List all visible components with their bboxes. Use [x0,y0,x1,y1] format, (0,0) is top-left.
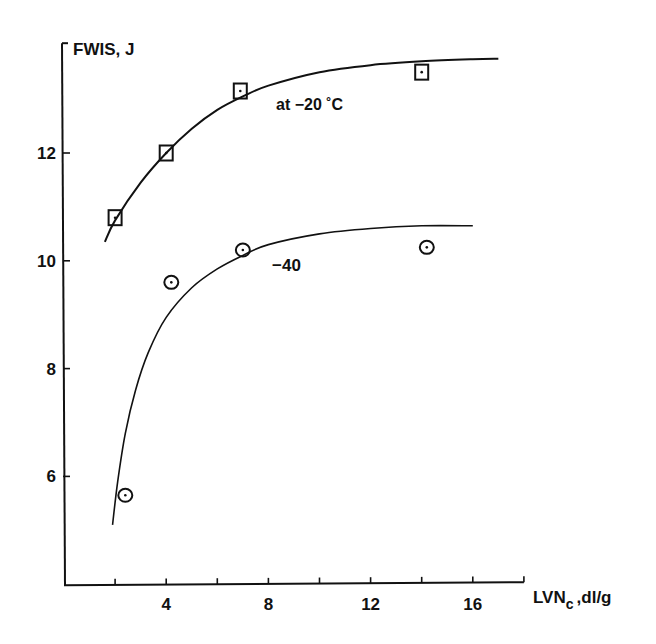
y-tick-label: 8 [47,360,56,379]
marker-center-dot [114,216,117,219]
chart: 481216 681012 FWIS, J LVNc,dl/g at −20 ˚… [0,0,656,644]
x-tick-label: 12 [361,595,380,614]
series-label-minus20: at −20 ˚C [276,96,344,113]
marker-center-dot [239,90,242,93]
x-axis-label-unit: ,dl/g [577,588,612,607]
y-tick-label: 10 [37,252,56,271]
marker-center-dot [426,246,429,249]
x-axis [64,582,524,585]
x-tick-label: 8 [264,595,273,614]
x-axis-label-main: LVN [533,588,566,607]
fit-curve-minus20 [105,59,498,242]
y-tick-label: 12 [37,144,56,163]
data-markers [109,65,434,502]
y-tick-label: 6 [47,467,56,486]
fit-curves [105,59,498,525]
marker-center-dot [170,281,173,284]
y-axis-label: FWIS, J [73,40,134,59]
y-axis [62,43,65,585]
x-axis-label: LVNc,dl/g [533,588,612,612]
axes [62,43,524,585]
marker-center-dot [242,249,245,252]
x-axis-label-subscript: c [566,596,574,612]
marker-center-dot [165,152,168,155]
marker-center-dot [420,71,423,74]
series-label-minus40: −40 [272,256,301,275]
marker-center-dot [124,494,127,497]
x-tick-label: 4 [161,595,171,614]
x-tick-label: 16 [463,595,482,614]
